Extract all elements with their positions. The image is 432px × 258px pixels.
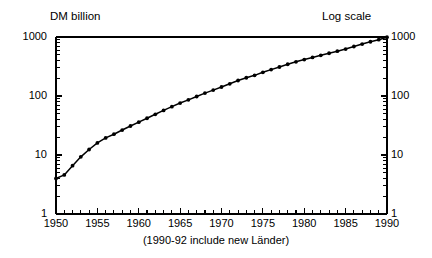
y-axis-tick-label-left: 1000: [0, 31, 47, 42]
y-axis-tick-label-right: 100: [391, 90, 409, 101]
x-axis-tick-label: 1980: [286, 218, 322, 229]
chart-root: DM billion Log scale 1000100101 10001001…: [0, 0, 432, 258]
y-axis-tick-label-right: 10: [391, 149, 403, 160]
x-axis-tick-label: 1970: [204, 218, 240, 229]
y-axis-tick-label-left: 10: [0, 149, 47, 160]
chart-caption: (1990-92 include new Länder): [0, 235, 432, 246]
x-axis-tick-label: 1985: [328, 218, 364, 229]
data-series-markers: [54, 35, 389, 180]
x-axis-tick-label: 1975: [245, 218, 281, 229]
chart-axes: [56, 37, 387, 214]
x-axis-tick-label: 1965: [162, 218, 198, 229]
y-axis-tick-label-right: 1000: [391, 31, 415, 42]
x-axis-tick-label: 1960: [121, 218, 157, 229]
y-axis-tick-label-left: 100: [0, 90, 47, 101]
data-series-line: [56, 37, 387, 178]
x-axis-tick-label: 1955: [79, 218, 115, 229]
x-axis-tick-label: 1950: [38, 218, 74, 229]
x-axis-tick-label: 1990: [369, 218, 405, 229]
